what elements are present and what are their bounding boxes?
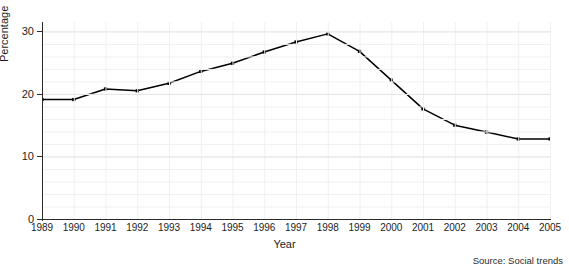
y-tick-label: 20 bbox=[22, 88, 34, 99]
x-tick-label: 1991 bbox=[94, 223, 116, 233]
x-tick-label: 1998 bbox=[317, 223, 339, 233]
cropped-title-text bbox=[108, 0, 248, 2]
x-tick-label: 1993 bbox=[158, 223, 180, 233]
x-tick-label: 1990 bbox=[63, 223, 85, 233]
y-tick-mark bbox=[37, 156, 42, 157]
y-tick-mark bbox=[37, 31, 42, 32]
x-tick-label: 1996 bbox=[253, 223, 275, 233]
x-tick-label: 1994 bbox=[190, 223, 212, 233]
x-tick-label: 1992 bbox=[126, 223, 148, 233]
x-tick-label: 2000 bbox=[380, 223, 402, 233]
x-tick-label: 1995 bbox=[221, 223, 243, 233]
x-tick-label: 2003 bbox=[475, 223, 497, 233]
y-axis-title: Percentage bbox=[0, 48, 10, 62]
x-tick-label: 2001 bbox=[412, 223, 434, 233]
x-tick-label: 2004 bbox=[507, 223, 529, 233]
x-axis-ticks: 1989199019911992199319941995199619971998… bbox=[42, 223, 551, 239]
y-tick-label: 10 bbox=[22, 151, 34, 162]
x-tick-label: 1999 bbox=[348, 223, 370, 233]
x-axis-title: Year bbox=[0, 238, 569, 250]
y-tick-mark bbox=[37, 94, 42, 95]
source-note: Source: Social trends bbox=[473, 255, 563, 266]
y-tick-mark bbox=[37, 219, 42, 220]
x-tick-label: 2005 bbox=[539, 223, 561, 233]
data-series-line bbox=[42, 22, 551, 220]
x-axis-line bbox=[42, 219, 551, 220]
plot-area: 0102030 bbox=[42, 22, 551, 220]
x-tick-label: 1989 bbox=[31, 223, 53, 233]
x-tick-label: 1997 bbox=[285, 223, 307, 233]
y-tick-label: 30 bbox=[22, 26, 34, 37]
chart-figure: 0102030 Percentage 198919901991199219931… bbox=[0, 0, 569, 273]
y-axis-line bbox=[42, 22, 43, 221]
x-tick-label: 2002 bbox=[444, 223, 466, 233]
